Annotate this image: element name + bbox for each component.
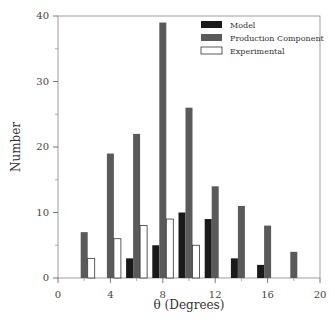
bar-experimental	[114, 239, 121, 278]
legend-label: Model	[230, 21, 256, 30]
bar-experimental	[193, 245, 200, 278]
x-tick-label: 16	[261, 289, 274, 300]
legend-swatch-model	[201, 21, 222, 28]
legend-swatch-experimental	[201, 47, 222, 54]
bar-production-component	[238, 206, 245, 278]
bar-production-component	[212, 186, 219, 278]
x-tick-label: 4	[107, 289, 113, 300]
bar-experimental	[140, 226, 147, 278]
bar-production-component	[133, 134, 140, 278]
bar-experimental	[166, 219, 173, 278]
bar-production-component	[186, 108, 193, 278]
x-tick-label: 20	[314, 289, 327, 300]
bar-production-component	[159, 23, 166, 278]
y-tick-label: 40	[36, 10, 49, 21]
y-tick-label: 30	[36, 76, 49, 87]
y-tick-label: 0	[43, 272, 49, 283]
x-axis-title: θ (Degrees)	[154, 298, 225, 312]
x-tick-label: 0	[55, 289, 61, 300]
bar-experimental	[88, 258, 95, 278]
bar-model	[231, 258, 238, 278]
bar-production-component	[290, 252, 297, 278]
bar-model	[179, 213, 186, 279]
bar-model	[152, 245, 159, 278]
bar-model	[126, 258, 133, 278]
bar-production-component	[81, 232, 88, 278]
y-tick-label: 10	[36, 207, 49, 218]
histogram-chart: 048121620010203040 ModelProduction Compo…	[0, 0, 335, 325]
bar-production-component	[107, 154, 114, 278]
bar-model	[257, 265, 264, 278]
bar-production-component	[264, 226, 271, 278]
legend-label: Production Component	[230, 34, 325, 43]
legend-label: Experimental	[230, 47, 285, 56]
legend: ModelProduction ComponentExperimental	[201, 21, 325, 56]
y-tick-label: 20	[36, 141, 49, 152]
y-axis-title: Number	[9, 122, 23, 172]
bars-group	[81, 23, 298, 278]
legend-swatch-production-component	[201, 34, 222, 41]
bar-model	[205, 219, 212, 278]
